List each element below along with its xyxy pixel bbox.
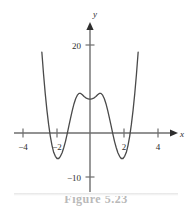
quartic-function-plot: x y −4 −2 2 4 20 −10 [0, 0, 192, 207]
figure-container: x y −4 −2 2 4 20 −10 [0, 0, 192, 207]
x-tick-label: 2 [122, 142, 127, 152]
x-tick-label: 4 [156, 142, 161, 152]
y-axis-label: y [92, 9, 97, 19]
y-tick-label: −10 [67, 173, 82, 183]
figure-caption: Figure 5.23 [0, 196, 192, 207]
y-axis-tick-labels: 20 −10 [67, 41, 82, 183]
y-axis-arrowhead [86, 22, 93, 30]
x-tick-label: −4 [18, 142, 28, 152]
x-axis-arrowhead [170, 129, 178, 136]
figure-caption-strip: Figure 5.23 [0, 196, 192, 207]
y-tick-label: 20 [72, 41, 82, 51]
x-axis-label: x [179, 129, 184, 139]
